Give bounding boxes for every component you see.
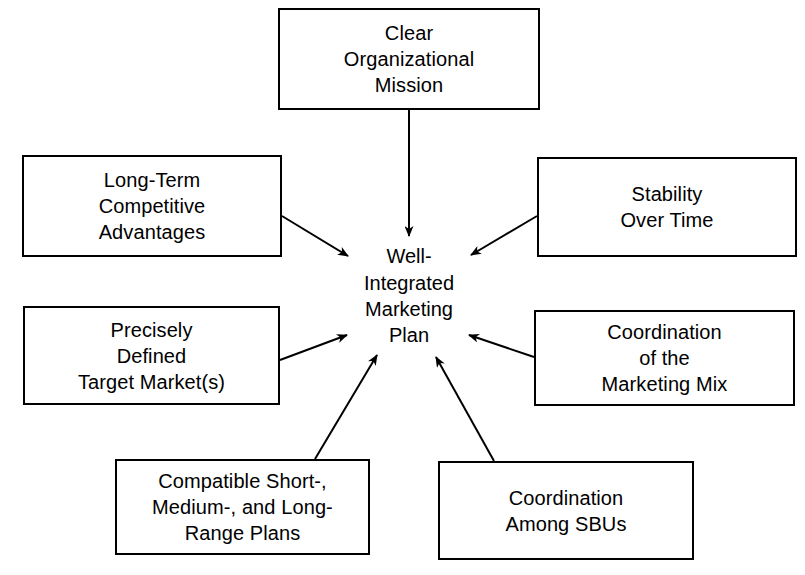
- compatible-plans-line-3: Range Plans: [185, 520, 301, 546]
- node-clear-organizational-mission: ClearOrganizationalMission: [278, 8, 540, 110]
- node-stability-over-time: StabilityOver Time: [537, 157, 797, 257]
- arrow-compatible-plans-to-center: [315, 355, 377, 459]
- coordination-among-sbus-line-1: Coordination: [509, 485, 624, 511]
- node-coordination-among-sbus: CoordinationAmong SBUs: [438, 461, 694, 560]
- center-line-2: Integrated: [364, 270, 454, 296]
- node-compatible-short-medium-long-range-plans: Compatible Short-,Medium-, and Long-Rang…: [115, 459, 370, 555]
- precisely-defined-target-markets-line-2: Defined: [117, 343, 187, 369]
- coordination-of-the-marketing-mix-line-2: of the: [639, 345, 690, 371]
- coordination-of-the-marketing-mix-line-3: Marketing Mix: [602, 371, 728, 397]
- long-term-competitive-advantages-line-2: Competitive: [99, 193, 206, 219]
- stability-over-time-line-2: Over Time: [620, 207, 713, 233]
- marketing-plan-diagram: ClearOrganizationalMission Long-TermComp…: [0, 0, 805, 575]
- precisely-defined-target-markets-line-1: Precisely: [110, 317, 192, 343]
- coordination-of-the-marketing-mix-line-1: Coordination: [607, 319, 722, 345]
- center-line-4: Plan: [389, 322, 429, 348]
- mission-line-3: Mission: [375, 72, 444, 98]
- compatible-plans-line-1: Compatible Short-,: [158, 468, 327, 494]
- arrow-sbus-to-center: [436, 357, 494, 461]
- long-term-competitive-advantages-line-1: Long-Term: [104, 167, 201, 193]
- stability-over-time-line-1: Stability: [632, 181, 703, 207]
- center-line-1: Well-: [386, 243, 431, 269]
- precisely-defined-target-markets-line-3: Target Market(s): [78, 369, 225, 395]
- node-precisely-defined-target-markets: PreciselyDefinedTarget Market(s): [23, 306, 280, 405]
- node-coordination-of-the-marketing-mix: Coordinationof theMarketing Mix: [534, 310, 795, 406]
- mission-line-2: Organizational: [344, 46, 474, 72]
- compatible-plans-line-2: Medium-, and Long-: [152, 494, 333, 520]
- node-long-term-competitive-advantages: Long-TermCompetitiveAdvantages: [22, 155, 282, 257]
- long-term-competitive-advantages-line-3: Advantages: [99, 219, 206, 245]
- center-line-3: Marketing: [365, 296, 453, 322]
- coordination-among-sbus-line-2: Among SBUs: [505, 511, 626, 537]
- center-node-well-integrated-marketing-plan: Well-IntegratedMarketingPlan: [334, 236, 484, 356]
- mission-line-1: Clear: [385, 20, 433, 46]
